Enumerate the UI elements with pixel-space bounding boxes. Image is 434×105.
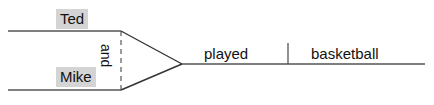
sentence-diagram: Ted Mike and played basketball xyxy=(0,0,434,105)
converge-line-upper xyxy=(121,31,182,64)
verb-label-played: played xyxy=(204,46,248,61)
conjunction-label-and: and xyxy=(99,44,113,67)
converge-line-lower xyxy=(121,64,182,90)
direct-object-label-basketball: basketball xyxy=(311,46,379,61)
subject-label-mike: Mike xyxy=(56,67,96,87)
subject-label-ted: Ted xyxy=(56,9,88,29)
